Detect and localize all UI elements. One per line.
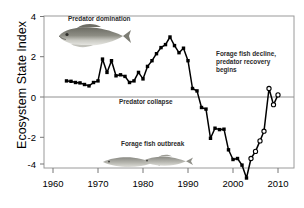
y-tick-label-0: 0: [31, 92, 36, 103]
annotation-forage-fish-decline: Forage fish decline, predator recovery b…: [216, 50, 290, 75]
x-tick-label-1970: 1970: [87, 178, 108, 189]
annotation-forage-decline-line2: predator recovery: [216, 58, 290, 66]
forage-fish-icon-2: [142, 155, 193, 166]
annotation-predator-domination: Predator domination: [68, 15, 131, 23]
x-tick-label-1990: 1990: [177, 178, 198, 189]
y-tick-label-4: 4: [31, 11, 36, 22]
x-tick-label-2000: 2000: [222, 178, 243, 189]
y-tick-label-neg2: -2: [28, 132, 36, 143]
annotation-predator-collapse: Predator collapse: [119, 98, 173, 106]
x-tick-label-2010: 2010: [267, 178, 288, 189]
y-tick-label-neg4: -4: [28, 159, 36, 170]
x-tick-label-1980: 1980: [132, 178, 153, 189]
annotation-forage-decline-line3: begins: [216, 66, 290, 74]
y-tick-label-2: 2: [31, 51, 36, 62]
cod-fish-icon: [59, 24, 131, 47]
x-tick-label-1960: 1960: [42, 178, 63, 189]
y-axis-ticks: [40, 17, 44, 178]
chart-container: Ecosystem State Index: [0, 0, 304, 208]
annotation-forage-decline-line1: Forage fish decline,: [216, 50, 290, 58]
data-line-recovery: [251, 89, 278, 159]
annotation-forage-fish-outbreak: Forage fish outbreak: [121, 140, 184, 148]
